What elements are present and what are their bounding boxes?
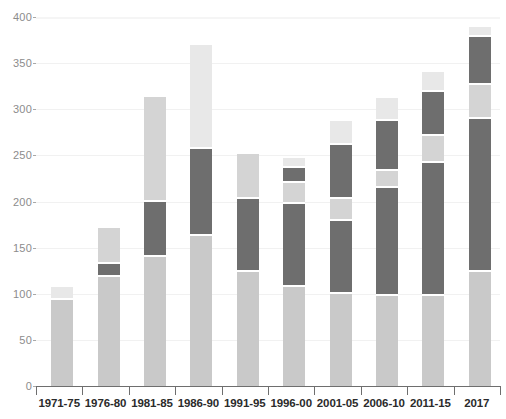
bar-segment-1981-85-segment-1 bbox=[144, 257, 166, 386]
bar-1971-75 bbox=[51, 287, 73, 386]
bar-segment-2001-05-segment-5 bbox=[330, 121, 352, 143]
bar-segment-2011-15-segment-5 bbox=[422, 72, 444, 90]
y-tick-label-300: 300 bbox=[2, 104, 32, 115]
stacked-bar-chart: 050100150200250300350400 1971-751976-801… bbox=[0, 0, 506, 419]
bar-segment-2011-15-segment-1 bbox=[422, 296, 444, 386]
x-tick-mark-3 bbox=[175, 386, 176, 395]
bar-segment-1976-80-segment-2 bbox=[98, 264, 120, 275]
gridline-400 bbox=[36, 17, 500, 19]
bar-2011-15 bbox=[422, 72, 444, 386]
bar-segment-2011-15-segment-2 bbox=[422, 163, 444, 294]
bar-segment-1976-80-segment-3 bbox=[98, 228, 120, 262]
x-tick-mark-8 bbox=[407, 386, 408, 395]
plot-area bbox=[36, 17, 500, 386]
y-tick-label-400: 400 bbox=[2, 12, 32, 23]
bar-2006-10 bbox=[376, 98, 398, 386]
bar-2017 bbox=[469, 27, 491, 386]
x-tick-label-2017: 2017 bbox=[447, 397, 506, 409]
bar-segment-2006-10-segment-3 bbox=[376, 171, 398, 187]
bar-segment-2017-segment-1 bbox=[469, 272, 491, 386]
bar-segment-1996-00-segment-1 bbox=[283, 287, 305, 386]
bar-segment-1971-75-segment-1 bbox=[51, 300, 73, 386]
x-tick-mark-7 bbox=[361, 386, 362, 395]
bar-segment-1986-90-segment-1 bbox=[190, 236, 212, 386]
x-tick-mark-0 bbox=[36, 386, 37, 395]
bar-segment-1996-00-segment-5 bbox=[283, 158, 305, 165]
bar-segment-1981-85-segment-3 bbox=[144, 97, 166, 200]
bar-segment-2006-10-segment-5 bbox=[376, 98, 398, 119]
x-tick-mark-6 bbox=[314, 386, 315, 395]
bar-segment-1986-90-segment-2 bbox=[190, 149, 212, 234]
y-axis: 050100150200250300350400 bbox=[0, 0, 32, 419]
bar-1986-90 bbox=[190, 45, 212, 386]
bar-segment-1986-90-segment-5 bbox=[190, 45, 212, 146]
bar-segment-1981-85-segment-2 bbox=[144, 202, 166, 255]
x-tick-mark-10 bbox=[500, 386, 501, 395]
x-tick-mark-1 bbox=[82, 386, 83, 395]
x-tick-mark-2 bbox=[129, 386, 130, 395]
bar-segment-1971-75-segment-5 bbox=[51, 287, 73, 298]
bar-segment-2017-segment-3 bbox=[469, 85, 491, 117]
gridline-350 bbox=[36, 63, 500, 64]
bar-segment-2011-15-segment-3 bbox=[422, 136, 444, 161]
bar-2001-05 bbox=[330, 121, 352, 386]
bar-1981-85 bbox=[144, 97, 166, 386]
y-tick-label-250: 250 bbox=[2, 150, 32, 161]
bar-1996-00 bbox=[283, 158, 305, 386]
bar-1991-95 bbox=[237, 154, 259, 386]
y-tick-label-350: 350 bbox=[2, 58, 32, 69]
bar-segment-1976-80-segment-1 bbox=[98, 277, 120, 386]
bar-segment-2017-segment-5 bbox=[469, 27, 491, 34]
bar-segment-2017-segment-4 bbox=[469, 37, 491, 83]
x-tick-mark-9 bbox=[454, 386, 455, 395]
bar-segment-2001-05-segment-2 bbox=[330, 221, 352, 292]
bar-1976-80 bbox=[98, 228, 120, 386]
bar-segment-2006-10-segment-2 bbox=[376, 188, 398, 293]
bar-segment-2001-05-segment-3 bbox=[330, 199, 352, 218]
bar-segment-1996-00-segment-4 bbox=[283, 168, 305, 181]
y-tick-label-100: 100 bbox=[2, 289, 32, 300]
x-tick-mark-4 bbox=[222, 386, 223, 395]
bar-segment-2001-05-segment-4 bbox=[330, 145, 352, 198]
y-tick-label-0: 0 bbox=[2, 381, 32, 392]
x-tick-mark-5 bbox=[268, 386, 269, 395]
bar-segment-2017-segment-2 bbox=[469, 119, 491, 269]
bar-segment-1991-95-segment-2 bbox=[237, 199, 259, 270]
bar-segment-2006-10-segment-4 bbox=[376, 121, 398, 169]
bar-segment-2001-05-segment-1 bbox=[330, 294, 352, 386]
bar-segment-1991-95-segment-3 bbox=[237, 154, 259, 196]
bar-segment-1996-00-segment-3 bbox=[283, 183, 305, 202]
x-axis: 1971-751976-801981-851986-901991-951996-… bbox=[36, 386, 500, 419]
bar-segment-2006-10-segment-1 bbox=[376, 296, 398, 386]
y-tick-label-50: 50 bbox=[2, 335, 32, 346]
bar-segment-1996-00-segment-2 bbox=[283, 204, 305, 285]
bar-segment-2011-15-segment-4 bbox=[422, 92, 444, 134]
bar-segment-1991-95-segment-1 bbox=[237, 272, 259, 386]
y-tick-label-200: 200 bbox=[2, 197, 32, 208]
y-tick-label-150: 150 bbox=[2, 243, 32, 254]
